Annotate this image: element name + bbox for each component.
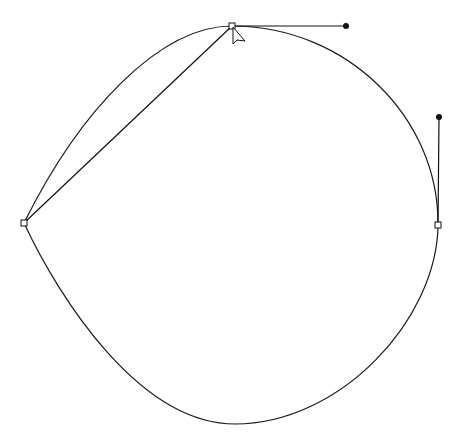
drawing-canvas[interactable] (0, 0, 465, 445)
handle-line (438, 117, 439, 225)
anchor-point-right[interactable] (435, 222, 441, 228)
straight-segment-line (24, 26, 232, 223)
handle-points[interactable] (343, 23, 442, 120)
arrow-cursor-icon (233, 27, 245, 44)
bezier-path[interactable] (24, 26, 438, 424)
handle-lines (232, 26, 439, 225)
handle-point[interactable] (436, 114, 442, 120)
anchor-point-left[interactable] (21, 220, 27, 226)
handle-point[interactable] (343, 23, 349, 29)
